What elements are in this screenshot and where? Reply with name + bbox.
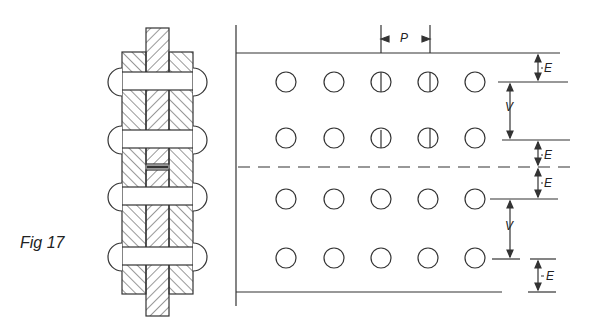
edge-distance-label: E: [544, 61, 553, 75]
row-spacing-label: V: [505, 100, 514, 114]
rivet-head: [193, 126, 207, 154]
riveted-joint-diagram: P E V E E V E: [0, 0, 593, 327]
rivet-shank: [122, 72, 193, 90]
cross-section: [108, 28, 207, 316]
edge-distance-label: E: [544, 176, 553, 190]
rivet-head: [108, 243, 122, 271]
rivet-grid: [276, 72, 485, 268]
plan-view: [236, 25, 572, 306]
rivet-head: [193, 68, 207, 96]
rivet-shank: [122, 247, 193, 265]
edge-distance-label: E: [544, 148, 553, 162]
rivet-shank: [122, 130, 193, 148]
row-spacing-label: V: [505, 219, 514, 233]
rivet-head: [108, 68, 122, 96]
rivet-head: [108, 126, 122, 154]
rivet-head: [193, 183, 207, 211]
rivet-shank: [122, 187, 193, 205]
rivet-head: [193, 243, 207, 271]
edge-distance-label: E: [546, 269, 555, 283]
rivet-head: [108, 183, 122, 211]
pitch-label: P: [400, 31, 408, 45]
